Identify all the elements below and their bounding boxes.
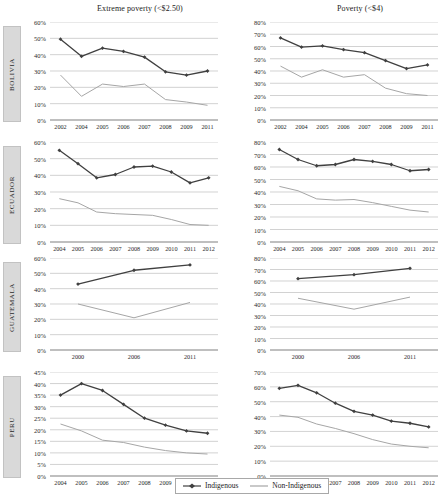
x-tick-label: 2010	[385, 479, 397, 487]
y-tick-label: 30%	[254, 80, 266, 87]
x-tick-label: 2009	[146, 245, 158, 253]
y-tick-label: 40%	[34, 51, 46, 58]
plot-svg	[50, 258, 218, 352]
x-tick-label: 2004	[295, 123, 307, 131]
x-tick-label: 2012	[422, 479, 434, 487]
legend-swatch-non-indigenous	[250, 482, 268, 490]
y-tick-label: 45%	[34, 369, 46, 376]
y-tick-label: 20%	[254, 214, 266, 221]
legend-label-indigenous: Indigenous	[205, 481, 238, 490]
y-tick-label: 30%	[34, 301, 46, 308]
x-tick-label: 2011	[404, 245, 416, 253]
chart-row-peru: PERU0%5%10%15%20%25%30%35%40%45%20042005…	[0, 372, 440, 490]
y-tick-label: 60%	[34, 139, 46, 146]
x-tick-label: 2005	[316, 123, 328, 131]
plot-svg	[270, 372, 438, 478]
y-tick-label: 20%	[34, 426, 46, 433]
x-tick-label: 2007	[329, 245, 341, 253]
y-tick-label: 30%	[34, 189, 46, 196]
x-tick-label: 2007	[117, 479, 129, 487]
y-tick-label: 50%	[34, 270, 46, 277]
y-tick-label: 0%	[37, 347, 46, 354]
chart-row-guatemala: GUATEMALA0%10%20%30%40%50%60%20002006201…	[0, 258, 440, 364]
x-tick-label: 2007	[138, 123, 150, 131]
legend: Indigenous Non-Indigenous	[175, 478, 329, 494]
x-tick-label: 2011	[421, 123, 433, 131]
x-tick-label: 2008	[128, 245, 140, 253]
plot-svg	[50, 142, 218, 244]
y-tick-label: 0%	[37, 239, 46, 246]
y-tick-label: 50%	[34, 35, 46, 42]
y-tick-label: 0%	[257, 117, 266, 124]
plot-svg	[270, 142, 438, 244]
x-tick-label: 2011	[201, 123, 213, 131]
y-tick-label: 10%	[254, 458, 266, 465]
country-label-text: PERU	[8, 417, 16, 437]
y-tick-label: 40%	[254, 413, 266, 420]
x-tick-label: 2012	[202, 245, 214, 253]
chart-row-bolivia: BOLIVIA0%10%20%30%40%50%60%2002200420052…	[0, 22, 440, 134]
y-tick-label: 60%	[34, 19, 46, 26]
country-label-text: ECUADOR	[8, 176, 16, 214]
y-tick-label: 20%	[34, 316, 46, 323]
x-tick-label: 2004	[75, 123, 87, 131]
x-tick-label: 2007	[329, 479, 341, 487]
plot-svg	[50, 22, 218, 122]
x-tick-label: 2008	[348, 245, 360, 253]
y-tick-label: 40%	[254, 301, 266, 308]
y-tick-label: 30%	[34, 403, 46, 410]
y-tick-label: 40%	[254, 189, 266, 196]
legend-item-indigenous: Indigenous	[183, 481, 238, 490]
y-tick-label: 10%	[254, 335, 266, 342]
y-tick-label: 40%	[34, 172, 46, 179]
y-tick-label: 10%	[34, 331, 46, 338]
x-tick-label: 2004	[273, 245, 285, 253]
x-tick-label: 2002	[54, 123, 66, 131]
legend-label-non-indigenous: Non-Indigenous	[272, 481, 321, 490]
y-tick-label: 10%	[254, 226, 266, 233]
y-tick-label: 70%	[254, 31, 266, 38]
y-tick-label: 20%	[254, 324, 266, 331]
x-tick-label: 2010	[385, 245, 397, 253]
x-tick-label: 2006	[117, 123, 129, 131]
x-tick-label: 2006	[128, 353, 140, 361]
x-tick-label: 2004	[53, 245, 65, 253]
y-tick-label: 60%	[34, 255, 46, 262]
y-tick-label: 10%	[34, 449, 46, 456]
legend-item-non-indigenous: Non-Indigenous	[250, 481, 321, 490]
x-tick-label: 2011	[404, 479, 416, 487]
x-tick-label: 2006	[96, 479, 108, 487]
y-tick-label: 60%	[254, 164, 266, 171]
x-tick-label: 2009	[400, 123, 412, 131]
y-tick-label: 15%	[34, 438, 46, 445]
y-tick-label: 70%	[254, 369, 266, 376]
x-tick-label: 2008	[138, 479, 150, 487]
x-tick-label: 2008	[348, 479, 360, 487]
y-tick-label: 10%	[34, 222, 46, 229]
y-tick-label: 50%	[254, 289, 266, 296]
y-tick-label: 0%	[257, 347, 266, 354]
plot-svg	[270, 22, 438, 122]
x-tick-label: 2011	[184, 245, 196, 253]
y-tick-label: 50%	[34, 155, 46, 162]
y-tick-label: 30%	[254, 428, 266, 435]
x-tick-label: 2004	[54, 479, 66, 487]
y-tick-label: 60%	[254, 43, 266, 50]
x-tick-label: 2006	[90, 245, 102, 253]
y-tick-label: 70%	[254, 151, 266, 158]
country-label-ecuador: ECUADOR	[3, 146, 21, 244]
y-tick-label: 20%	[254, 92, 266, 99]
x-tick-label: 2005	[96, 123, 108, 131]
x-tick-label: 2000	[292, 353, 304, 361]
y-tick-label: 40%	[34, 285, 46, 292]
x-tick-label: 2011	[184, 353, 196, 361]
y-tick-label: 20%	[34, 205, 46, 212]
y-tick-label: 80%	[254, 19, 266, 26]
y-tick-label: 0%	[37, 473, 46, 480]
y-tick-label: 20%	[34, 84, 46, 91]
x-tick-label: 2008	[379, 123, 391, 131]
y-tick-label: 30%	[254, 312, 266, 319]
x-tick-label: 2009	[180, 123, 192, 131]
x-tick-label: 2007	[109, 245, 121, 253]
y-tick-label: 30%	[254, 201, 266, 208]
